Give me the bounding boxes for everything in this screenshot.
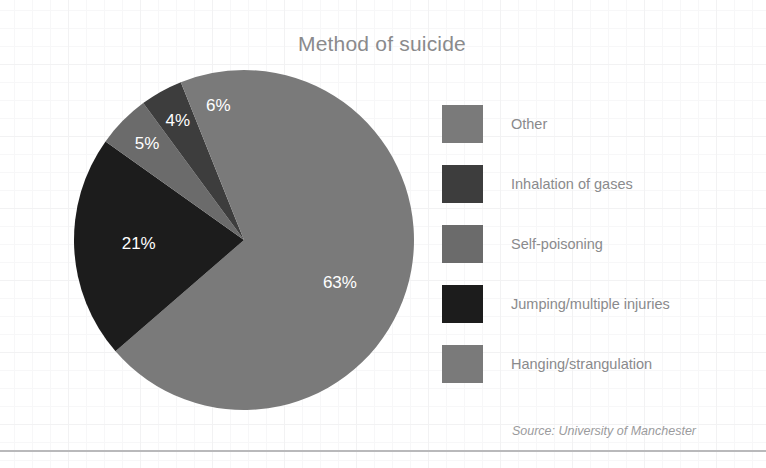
- pie-slice-value-label: 6%: [206, 96, 231, 115]
- legend-color-swatch: [442, 345, 483, 383]
- chart-title: Method of suicide: [10, 32, 754, 56]
- legend-item[interactable]: Jumping/multiple injuries: [442, 274, 742, 334]
- pie-slice-value-label: 63%: [323, 273, 357, 292]
- legend-color-swatch: [442, 105, 483, 143]
- legend-item[interactable]: Hanging/strangulation: [442, 334, 742, 394]
- legend-item[interactable]: Self-poisoning: [442, 214, 742, 274]
- legend-color-swatch: [442, 285, 483, 323]
- pie-slice-value-label: 4%: [166, 111, 191, 130]
- legend-item-label: Hanging/strangulation: [511, 356, 652, 372]
- legend-color-swatch: [442, 225, 483, 263]
- legend-item-label: Self-poisoning: [511, 236, 603, 252]
- pie-plot-area: 63%21%5%4%6%: [72, 68, 416, 412]
- chart-card: Method of suicide 63%21%5%4%6% OtherInha…: [10, 10, 754, 446]
- legend-item-label: Other: [511, 116, 547, 132]
- bottom-divider: [0, 450, 766, 452]
- pie-slice-value-label: 21%: [122, 234, 156, 253]
- chart-legend: OtherInhalation of gasesSelf-poisoningJu…: [442, 94, 742, 394]
- pie-svg: 63%21%5%4%6%: [72, 68, 416, 412]
- pie-chart-figure: Method of suicide 63%21%5%4%6% OtherInha…: [0, 0, 766, 468]
- legend-item-label: Inhalation of gases: [511, 176, 633, 192]
- pie-slice-value-label: 5%: [135, 134, 160, 153]
- legend-item[interactable]: Inhalation of gases: [442, 154, 742, 214]
- source-attribution: Source: University of Manchester: [512, 424, 696, 438]
- legend-item[interactable]: Other: [442, 94, 742, 154]
- legend-color-swatch: [442, 165, 483, 203]
- legend-item-label: Jumping/multiple injuries: [511, 296, 670, 312]
